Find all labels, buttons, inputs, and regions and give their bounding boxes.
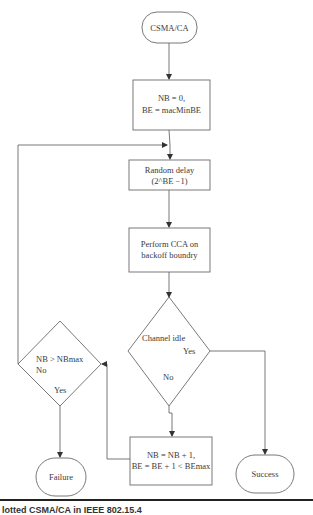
- channel-idle-label: Channel idle: [142, 333, 185, 343]
- nb-check-yes-label: Yes: [54, 385, 66, 395]
- delay-line1: Random delay: [145, 165, 195, 175]
- nb-check-no-label: No: [36, 365, 46, 375]
- cca-process-box: Perform CCA on backoff boundry: [129, 228, 210, 272]
- nb-check-label: NB > NBmax: [36, 354, 84, 364]
- edge-init-delay: [169, 130, 170, 159]
- caption-rule: [0, 499, 313, 501]
- channel-idle-decision: Channel idle Yes No: [128, 297, 210, 406]
- channel-idle-yes-label: Yes: [183, 346, 195, 356]
- figure-caption: lotted CSMA/CA in IEEE 802.15.4: [2, 505, 142, 515]
- increment-line1: NB = NB + 1,: [147, 450, 195, 460]
- start-terminal: CSMA/CA: [142, 12, 197, 43]
- failure-terminal: Failure: [36, 458, 86, 496]
- init-process-box: NB = 0, BE = macMinBE: [133, 80, 210, 130]
- increment-line2: BE = BE + 1 < BEmax: [132, 461, 211, 471]
- cca-line2: backoff boundry: [141, 250, 198, 260]
- success-label: Success: [252, 469, 279, 479]
- delay-process-box: Random delay (2^BE −1): [129, 160, 210, 190]
- increment-process-box: NB = NB + 1, BE = BE + 1 < BEmax: [130, 437, 212, 485]
- edge-increment-nbcheck: [102, 364, 130, 459]
- cca-line1: Perform CCA on: [141, 239, 199, 249]
- failure-label: Failure: [49, 472, 73, 482]
- nb-max-decision: NB > NBmax No Yes: [18, 321, 101, 406]
- channel-idle-no-label: No: [163, 372, 173, 382]
- edge-yes-success: [210, 351, 265, 454]
- init-line1: NB = 0,: [158, 93, 185, 103]
- start-label: CSMA/CA: [150, 23, 189, 33]
- edge-no-increment: [169, 406, 172, 436]
- init-line2: BE = macMinBE: [142, 105, 201, 115]
- delay-line2: (2^BE −1): [152, 176, 188, 186]
- success-terminal: Success: [236, 455, 294, 493]
